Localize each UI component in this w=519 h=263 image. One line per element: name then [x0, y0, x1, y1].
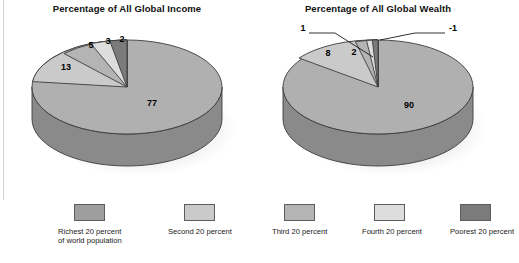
pie-wealth-value-third: 2	[351, 47, 356, 57]
pie-wealth-value-richest: 90	[404, 100, 414, 110]
pie-income-value-third: 5	[88, 40, 93, 50]
legend-item-poorest[interactable]: Poorest 20 percent	[450, 204, 519, 236]
pie-income-value-poorest: 2	[119, 34, 124, 44]
legend-swatch-third	[284, 204, 315, 221]
pie-wealth-svg: 90 8 2 1 -1	[249, 0, 498, 200]
legend-item-fourth[interactable]: Fourth 20 percent	[362, 204, 448, 236]
pie-wealth-value-second: 8	[325, 48, 330, 58]
pie-chart-global-wealth: 90 8 2 1 -1	[249, 0, 498, 200]
legend-item-second[interactable]: Second 20 percent	[168, 204, 266, 236]
legend-swatch-fourth	[374, 204, 405, 221]
legend-item-richest[interactable]: Richest 20 percent of world population	[58, 204, 162, 246]
legend-label-richest: Richest 20 percent of world population	[58, 227, 162, 246]
legend-item-third[interactable]: Third 20 percent	[272, 204, 358, 236]
legend-swatch-second	[184, 204, 215, 221]
pie-income-svg: 77 13 5 3 2	[0, 0, 249, 200]
legend-label-second: Second 20 percent	[168, 227, 266, 236]
pie-income-value-richest: 77	[147, 98, 157, 108]
chart-legend: Richest 20 percent of world population S…	[0, 200, 498, 263]
pie-chart-global-income: 77 13 5 3 2	[0, 0, 249, 200]
legend-label-third: Third 20 percent	[272, 227, 358, 236]
pie-income-value-fourth: 3	[105, 36, 110, 46]
pie-wealth-value-fourth: 1	[300, 23, 305, 33]
legend-label-fourth: Fourth 20 percent	[362, 227, 448, 236]
legend-swatch-poorest	[460, 204, 491, 221]
pie-income-value-second: 13	[61, 62, 71, 72]
pie-wealth-value-poorest: -1	[449, 23, 457, 33]
leader-line-poorest	[380, 33, 445, 40]
legend-swatch-richest	[74, 204, 105, 221]
legend-label-poorest: Poorest 20 percent	[450, 227, 519, 236]
